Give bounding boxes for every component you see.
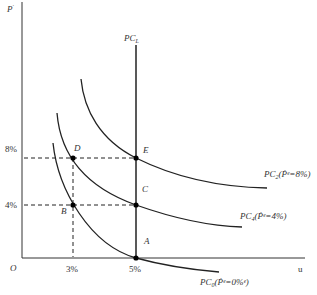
- point-E: [133, 155, 138, 160]
- curve-label-pc0: PC0(Ṗᵉ=0%ᵉ): [199, 277, 249, 288]
- y-tick-8pct: 8%: [5, 144, 18, 154]
- label-D: D: [73, 143, 81, 153]
- point-D: [70, 155, 75, 160]
- y-axis-label: P·: [6, 3, 15, 14]
- curve-pc4: [57, 113, 242, 227]
- point-C: [133, 202, 138, 207]
- label-A: A: [143, 236, 150, 246]
- point-B: [70, 202, 75, 207]
- phillips-curve-diagram: P· O u 8% 4% 3% 5% PCL A B C D E PC2(Ṗᵉ…: [0, 0, 317, 295]
- point-A: [133, 255, 138, 260]
- x-tick-3pct: 3%: [66, 264, 79, 274]
- pc-long-run-label: PCL: [123, 33, 140, 44]
- label-B: B: [61, 206, 67, 216]
- x-axis-label: u: [298, 264, 303, 274]
- curve-pc8: [81, 79, 267, 188]
- origin-label: O: [10, 263, 17, 273]
- curve-label-pc8: PC2(Ṗᵉ=8%): [263, 169, 310, 180]
- curve-label-pc4: PC4(Ṗᵉ=4%): [239, 211, 286, 222]
- label-E: E: [142, 145, 149, 155]
- y-tick-4pct: 4%: [5, 200, 18, 210]
- x-tick-5pct: 5%: [129, 264, 142, 274]
- label-C: C: [142, 184, 149, 194]
